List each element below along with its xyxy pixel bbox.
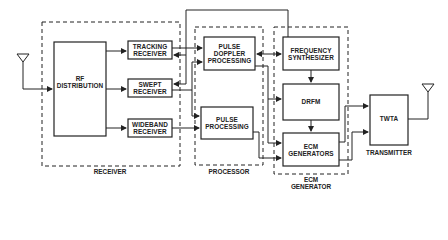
processor-group-label: PROCESSOR: [199, 168, 259, 175]
receiver-group-label: RECEIVER: [80, 168, 140, 175]
pulse-doppler-processing-label: PULSE DOPPLER PROCESSING: [204, 43, 255, 65]
swept-receiver-label: SWEPT RECEIVER: [128, 81, 172, 95]
receive-antenna-icon: [17, 54, 52, 89]
ecm-generators-label: ECM GENERATORS: [283, 143, 339, 157]
wideband-receiver-label: WIDEBAND RECEIVER: [128, 121, 172, 135]
frequency-synthesizer-label: FREQUENCY SYNTHESIZER: [283, 47, 339, 61]
tracking-receiver-label: TRACKING RECEIVER: [128, 43, 172, 57]
drfm-label: DRFM: [283, 98, 339, 105]
transmit-antenna-icon: [408, 84, 434, 119]
ecm-generator-group-label: ECM GENERATOR: [281, 176, 341, 191]
transmitter-group-label: TRANSMITTER: [356, 149, 422, 156]
pulse-processing-label: PULSE PROCESSING: [201, 116, 253, 130]
twta-label: TWTA: [370, 115, 408, 122]
rf-distribution-label: RF DISTRIBUTION: [54, 75, 106, 89]
